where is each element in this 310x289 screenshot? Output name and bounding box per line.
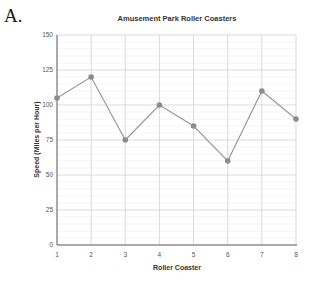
x-tick-label: 1	[55, 251, 59, 258]
y-tick-label: 75	[46, 136, 54, 143]
y-tick-label: 0	[49, 241, 53, 248]
data-point	[54, 95, 60, 101]
x-tick-label: 7	[260, 251, 264, 258]
data-point	[191, 123, 197, 129]
y-tick-label: 150	[42, 31, 53, 38]
x-tick-label: 5	[192, 251, 196, 258]
y-tick-label: 125	[42, 66, 53, 73]
line-chart: 025507510012515012345678	[0, 0, 310, 289]
y-tick-label: 50	[46, 171, 54, 178]
data-point	[293, 116, 299, 122]
x-tick-label: 8	[294, 251, 298, 258]
data-point	[88, 74, 94, 80]
data-point	[225, 158, 231, 164]
x-tick-label: 2	[89, 251, 93, 258]
x-tick-label: 3	[123, 251, 127, 258]
y-tick-label: 100	[42, 101, 53, 108]
x-tick-label: 4	[158, 251, 162, 258]
y-tick-label: 25	[46, 206, 54, 213]
data-point	[259, 88, 265, 94]
x-tick-label: 6	[226, 251, 230, 258]
data-point	[122, 137, 128, 143]
data-point	[157, 102, 163, 108]
